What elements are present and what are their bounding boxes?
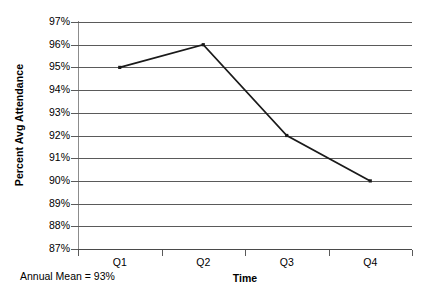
x-tick-label-q2: Q2 <box>173 256 233 269</box>
x-tick-label-q4: Q4 <box>340 256 400 269</box>
x-tick-label-q1: Q1 <box>90 256 150 269</box>
x-axis-tick-labels: Q1Q2Q3Q4 <box>0 256 428 270</box>
annual-mean-annotation: Annual Mean = 93% <box>20 270 115 283</box>
x-axis-tickmarks <box>0 0 428 295</box>
x-axis-title: Time <box>78 272 412 284</box>
attendance-line-chart: Percent Avg Attendance 97%96%95%94%93%92… <box>0 0 428 295</box>
x-tick-label-q3: Q3 <box>257 256 317 269</box>
